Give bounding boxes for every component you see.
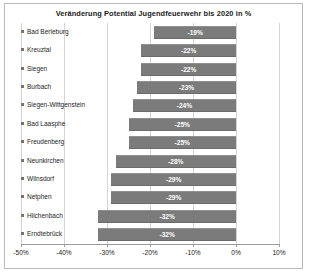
- bar-value-label: -29%: [111, 176, 236, 183]
- category-label: Bad Berleburg: [21, 28, 69, 35]
- legend-swatch-icon: [21, 177, 24, 180]
- x-tick-label: 0%: [221, 249, 251, 256]
- legend-swatch-icon: [21, 67, 24, 70]
- category-label-text: Bad Berleburg: [27, 28, 69, 35]
- category-label-text: Bad Laasphe: [27, 120, 65, 127]
- x-tick-mark: [236, 244, 237, 247]
- bar-value-label: -28%: [116, 158, 236, 165]
- legend-swatch-icon: [21, 103, 24, 106]
- category-label: Erndtebrück: [21, 230, 62, 237]
- bar-value-label: -25%: [129, 139, 237, 146]
- category-label-text: Burbach: [27, 83, 51, 90]
- category-label-text: Wilnsdorf: [27, 175, 54, 182]
- x-tick-label: -40%: [49, 249, 79, 256]
- bar-value-label: -22%: [141, 47, 236, 54]
- category-label: Freudenberg: [21, 138, 64, 145]
- x-gridline: [64, 23, 65, 244]
- x-gridline: [21, 23, 22, 244]
- x-tick-label: -50%: [6, 249, 36, 256]
- category-label: Netphen: [21, 193, 52, 200]
- category-label-text: Netphen: [27, 193, 52, 200]
- x-tick-label: -20%: [135, 249, 165, 256]
- category-label: Neunkirchen: [21, 157, 64, 164]
- x-tick-mark: [150, 244, 151, 247]
- category-label: Hilchenbach: [21, 212, 63, 219]
- x-gridline: [236, 23, 237, 244]
- x-tick-mark: [279, 244, 280, 247]
- legend-swatch-icon: [21, 232, 24, 235]
- bar-value-label: -32%: [98, 213, 236, 220]
- x-tick-mark: [193, 244, 194, 247]
- chart-container: Veränderung Potential Jugendfeuerwehr bi…: [4, 3, 303, 269]
- legend-swatch-icon: [21, 122, 24, 125]
- category-label: Burbach: [21, 83, 51, 90]
- bar-value-label: -29%: [111, 194, 236, 201]
- bar-value-label: -19%: [154, 29, 236, 36]
- legend-swatch-icon: [21, 214, 24, 217]
- legend-swatch-icon: [21, 159, 24, 162]
- bar-value-label: -24%: [133, 102, 236, 109]
- category-label-text: Kreuztal: [27, 46, 51, 53]
- x-tick-label: 10%: [264, 249, 294, 256]
- x-gridline: [279, 23, 280, 244]
- x-tick-mark: [107, 244, 108, 247]
- x-tick-label: -30%: [92, 249, 122, 256]
- bar-value-label: -22%: [141, 66, 236, 73]
- category-label-text: Freudenberg: [27, 138, 64, 145]
- legend-swatch-icon: [21, 195, 24, 198]
- category-label: Bad Laasphe: [21, 120, 65, 127]
- category-label-text: Siegen: [27, 65, 47, 72]
- chart-title: Veränderung Potential Jugendfeuerwehr bi…: [5, 9, 302, 18]
- legend-swatch-icon: [21, 140, 24, 143]
- legend-swatch-icon: [21, 48, 24, 51]
- x-tick-mark: [64, 244, 65, 247]
- category-label: Wilnsdorf: [21, 175, 54, 182]
- x-tick-label: -10%: [178, 249, 208, 256]
- category-label: Siegen: [21, 65, 47, 72]
- bar-value-label: -25%: [129, 121, 237, 128]
- category-label-text: Hilchenbach: [27, 212, 63, 219]
- category-label-text: Erndtebrück: [27, 230, 62, 237]
- bar-value-label: -32%: [98, 231, 236, 238]
- legend-swatch-icon: [21, 30, 24, 33]
- category-label: Siegen-Wittgenstein: [21, 101, 85, 108]
- x-tick-mark: [21, 244, 22, 247]
- category-label: Kreuztal: [21, 46, 51, 53]
- legend-swatch-icon: [21, 85, 24, 88]
- bar-value-label: -23%: [137, 84, 236, 91]
- category-label-text: Siegen-Wittgenstein: [27, 101, 85, 108]
- category-label-text: Neunkirchen: [27, 157, 64, 164]
